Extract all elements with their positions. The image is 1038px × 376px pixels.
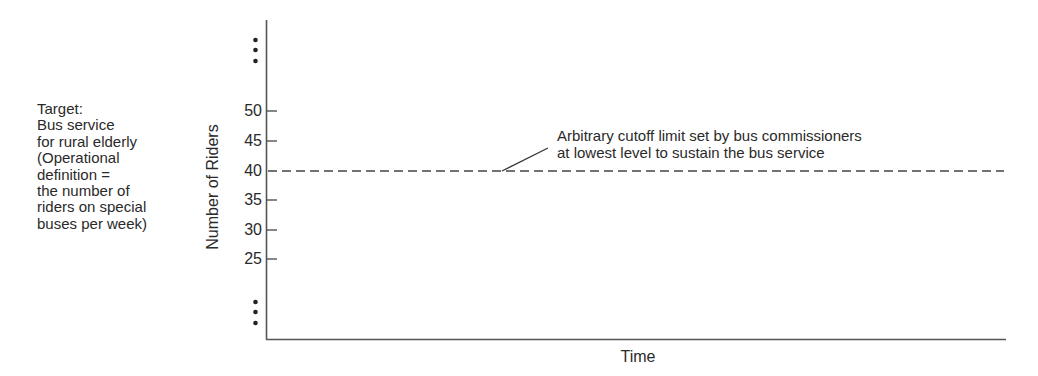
- x-axis-label: Time: [621, 348, 656, 366]
- axis-break-dots-top: [253, 38, 258, 64]
- annotation-leader-line: [502, 148, 548, 171]
- cutoff-annotation: Arbitrary cutoff limit set by bus commis…: [557, 127, 862, 161]
- y-ticks: [267, 111, 277, 259]
- annotation-line-2: at lowest level to sustain the bus servi…: [557, 144, 862, 161]
- plot-area: [0, 0, 1038, 376]
- axis-break-dots-bottom: [253, 300, 258, 326]
- annotation-line-1: Arbitrary cutoff limit set by bus commis…: [557, 127, 862, 144]
